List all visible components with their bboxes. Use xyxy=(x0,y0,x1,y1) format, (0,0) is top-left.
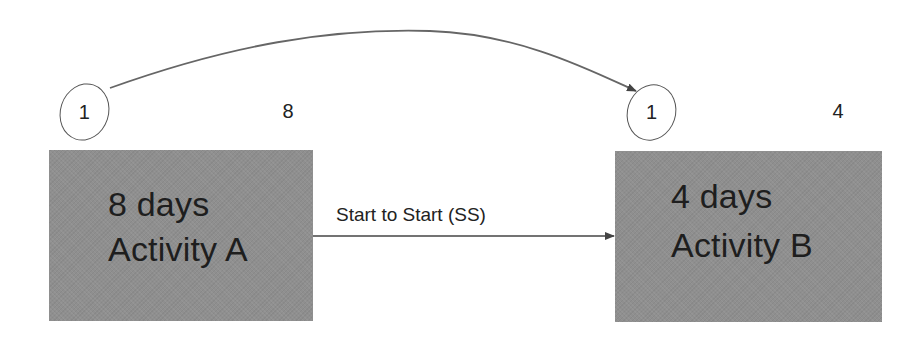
activity-a-box[interactable]: 8 days Activity A xyxy=(49,150,313,321)
curved-link-arrow xyxy=(110,31,636,91)
activity-a-name: Activity A xyxy=(108,232,248,266)
ss-link-label: Start to Start (SS) xyxy=(336,205,486,224)
activity-a-start-value: 1 xyxy=(79,101,90,124)
activity-a-start-marker: 1 xyxy=(52,77,117,147)
precedence-diagram: 1 8 8 days Activity A Start to Start (SS… xyxy=(0,0,922,343)
activity-a-duration-marker: 8 xyxy=(278,101,298,121)
activity-a-duration: 8 days xyxy=(108,187,209,221)
activity-b-box[interactable]: 4 days Activity B xyxy=(615,151,882,322)
activity-b-duration: 4 days xyxy=(671,179,772,213)
activity-b-name: Activity B xyxy=(671,228,813,262)
activity-b-start-value: 1 xyxy=(646,101,657,124)
activity-b-start-marker: 1 xyxy=(619,78,683,147)
activity-b-duration-marker: 4 xyxy=(828,101,848,121)
